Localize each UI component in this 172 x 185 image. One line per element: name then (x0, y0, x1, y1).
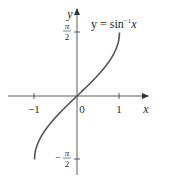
y-tick-label-pi-half-den: 2 (65, 32, 70, 42)
x-tick-label-0: 0 (79, 103, 85, 115)
arcsin-plot: −1 0 1 x y π 2 − π 2 y = sin−1x (0, 0, 172, 185)
function-label-var: x (130, 17, 137, 31)
x-tick-label-1: 1 (116, 103, 122, 115)
function-label-prefix: y = sin (91, 17, 124, 31)
chart-canvas: −1 0 1 x y π 2 − π 2 y = sin−1x (0, 0, 172, 185)
x-axis-label: x (142, 102, 149, 116)
y-tick-label-neg-pi-half-num: π (65, 148, 70, 158)
y-tick-label-neg-pi-half-den: 2 (65, 159, 70, 169)
function-label: y = sin−1x (91, 17, 137, 31)
y-tick-label-neg-sign: − (55, 152, 61, 163)
y-axis-label: y (66, 7, 73, 21)
x-tick-label-neg1: −1 (28, 103, 40, 115)
y-tick-label-pi-half-num: π (65, 21, 70, 31)
